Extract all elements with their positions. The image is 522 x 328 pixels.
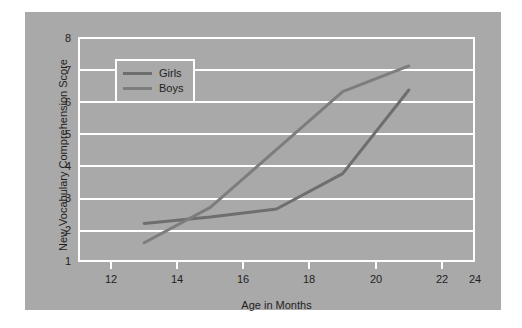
chart-figure: New Vocabulary Comprehension Score 8 7 6… (25, 12, 501, 310)
plot-area: 8 7 6 5 4 3 2 1 12 14 16 18 20 22 24 Gir… (78, 37, 475, 262)
x-tick-label-18: 18 (303, 273, 315, 285)
x-tick-20 (375, 262, 377, 269)
legend-swatch-boys-icon (123, 87, 152, 90)
y-tick-label-1: 1 (65, 255, 71, 267)
chart-legend: Girls Boys (115, 59, 195, 103)
x-tick-label-16: 16 (237, 273, 249, 285)
y-tick-label-5: 5 (65, 128, 71, 140)
x-tick-22 (441, 262, 443, 269)
y-tick-label-7: 7 (65, 64, 71, 76)
y-tick-label-3: 3 (65, 192, 71, 204)
x-tick-label-20: 20 (370, 273, 382, 285)
line-girls (144, 90, 409, 223)
x-tick-label-12: 12 (105, 273, 117, 285)
x-tick-label-14: 14 (171, 273, 183, 285)
y-tick-label-8: 8 (65, 32, 71, 44)
x-tick-12 (110, 262, 112, 269)
x-tick-18 (308, 262, 310, 269)
x-axis-title: Age in Months (78, 299, 475, 311)
x-tick-16 (242, 262, 244, 269)
y-tick-label-4: 4 (65, 160, 71, 172)
y-tick-label-6: 6 (65, 96, 71, 108)
x-tick-label-24: 24 (469, 273, 481, 285)
y-tick-label-2: 2 (65, 224, 71, 236)
legend-swatch-girls-icon (123, 72, 152, 75)
legend-label-girls: Girls (159, 66, 182, 81)
x-tick-14 (176, 262, 178, 269)
legend-item-boys: Boys (123, 81, 183, 96)
legend-item-girls: Girls (123, 66, 183, 81)
x-tick-label-22: 22 (436, 273, 448, 285)
legend-label-boys: Boys (159, 81, 183, 96)
